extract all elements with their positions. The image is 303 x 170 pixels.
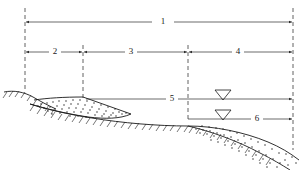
- dimension-6: 6: [188, 113, 292, 123]
- cross-section-diagram: 1 2 3 4 5 6: [0, 0, 303, 170]
- dimension-4-label: 4: [236, 46, 241, 56]
- water-table-symbols-group: [215, 90, 231, 120]
- embankment-stipple: [37, 99, 126, 117]
- right-deposit-top-line: [188, 126, 299, 160]
- dimension-3-label: 3: [129, 46, 134, 56]
- dimension-6-label: 6: [255, 113, 260, 123]
- water-table-triangle-lower-icon: [215, 110, 231, 120]
- dimension-4: 4: [189, 46, 292, 56]
- dimension-5: 5: [86, 93, 292, 103]
- right-sediment-wedge: [188, 125, 299, 170]
- extension-lines-group: [25, 8, 293, 150]
- dimension-1-label: 1: [161, 16, 166, 26]
- hatch-ticks-right: [189, 127, 270, 165]
- figure-container: 1 2 3 4 5 6: [0, 0, 303, 170]
- dimension-3: 3: [84, 46, 187, 56]
- dimension-5-label: 5: [170, 93, 175, 103]
- dimension-2-label: 2: [53, 46, 58, 56]
- water-table-triangle-upper-icon: [215, 90, 231, 100]
- natural-ground-line-middle: [30, 104, 188, 126]
- dimension-2: 2: [26, 46, 82, 56]
- dimension-1: 1: [26, 16, 292, 26]
- left-embankment-fill: [30, 97, 131, 118]
